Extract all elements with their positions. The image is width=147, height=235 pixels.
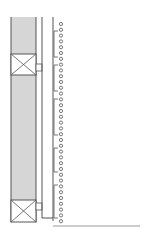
ring-icon (59, 46, 62, 49)
connector-box (36, 64, 42, 71)
ring-icon (59, 51, 62, 54)
ring-icon (59, 92, 62, 95)
ring-icon (59, 156, 62, 159)
bracket (54, 185, 58, 218)
ring-icon (59, 162, 62, 165)
ring-icon (59, 109, 62, 112)
ring-icon (59, 167, 62, 170)
ring-icon (59, 179, 62, 182)
ring-icon (59, 196, 62, 199)
bracket (54, 148, 58, 172)
bracket (54, 65, 58, 91)
ring-icon (59, 202, 62, 205)
ring-icon (59, 86, 62, 89)
ring-icon (59, 22, 62, 25)
shaded-column (11, 17, 36, 222)
ring-icon (59, 173, 62, 176)
ring-icon (59, 34, 62, 37)
ring-icon (59, 208, 62, 211)
bracket (54, 99, 58, 135)
ring-icon (59, 28, 62, 31)
ring-icon (59, 214, 62, 217)
ring-icon (59, 144, 62, 147)
ring-icon (59, 121, 62, 124)
schematic-diagram (0, 0, 147, 235)
ring-icon (59, 191, 62, 194)
ring-icon (59, 69, 62, 72)
ring-icon (59, 150, 62, 153)
connector-box (36, 203, 42, 210)
ring-icon (59, 63, 62, 66)
ring-icon (59, 80, 62, 83)
ring-icon (59, 75, 62, 78)
ring-icon (59, 115, 62, 118)
ring-icon (59, 138, 62, 141)
ring-icon (59, 220, 62, 223)
ring-icon (59, 133, 62, 136)
ring-icon (59, 185, 62, 188)
ring-icon (59, 98, 62, 101)
ring-icon (59, 104, 62, 107)
bracket (54, 31, 58, 57)
ring-icon (59, 57, 62, 60)
ring-icon (59, 40, 62, 43)
ring-icon (59, 127, 62, 130)
